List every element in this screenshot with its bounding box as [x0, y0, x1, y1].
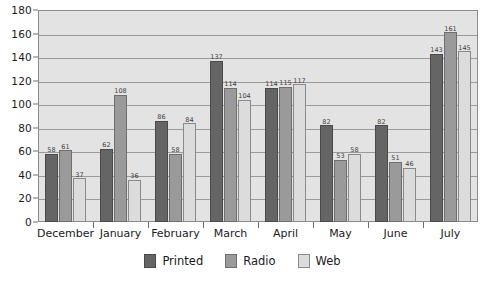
- x-tick-label: July: [441, 227, 461, 240]
- bar-value-label: 36: [130, 173, 138, 180]
- legend-item-web[interactable]: Web: [298, 254, 341, 268]
- y-tick-label: 0: [25, 216, 32, 228]
- bar-printed[interactable]: 137: [210, 61, 223, 222]
- legend-swatch-printed-icon: [144, 254, 156, 268]
- legend-label: Web: [316, 254, 341, 268]
- bar-value-label: 58: [171, 147, 179, 154]
- bar-value-label: 104: [238, 93, 250, 100]
- y-tick-label: 20: [18, 192, 32, 204]
- bar-radio[interactable]: 61: [59, 150, 72, 222]
- bar-radio[interactable]: 58: [169, 154, 182, 222]
- legend-label: Radio: [243, 254, 275, 268]
- bar-group: 114115117: [258, 10, 313, 222]
- bar-web[interactable]: 84: [183, 123, 196, 222]
- bar-radio[interactable]: 108: [114, 95, 127, 222]
- bar-printed[interactable]: 58: [45, 154, 58, 222]
- legend-item-printed[interactable]: Printed: [144, 254, 203, 268]
- x-tick-label: April: [273, 227, 298, 240]
- bar-group: 6210836: [93, 10, 148, 222]
- bar-web[interactable]: 117: [293, 84, 306, 222]
- bar-printed[interactable]: 62: [100, 149, 113, 222]
- bar-radio[interactable]: 114: [224, 88, 237, 222]
- x-tick-label: May: [329, 227, 352, 240]
- x-tick-label: February: [151, 227, 200, 240]
- legend-swatch-web-icon: [298, 254, 310, 268]
- bar-group: 586137: [38, 10, 93, 222]
- bar-value-label: 82: [322, 119, 330, 126]
- x-tick-label: December: [37, 227, 94, 240]
- bar-value-label: 145: [458, 45, 470, 52]
- bar-value-label: 84: [185, 117, 193, 124]
- y-tick-label: 140: [11, 51, 32, 63]
- bar-web[interactable]: 58: [348, 154, 361, 222]
- x-tick-label: June: [384, 227, 408, 240]
- bar-value-label: 86: [157, 114, 165, 121]
- bar-value-label: 58: [350, 147, 358, 154]
- bar-value-label: 62: [102, 142, 110, 149]
- bar-chart: 020406080100120140160180 586137621083686…: [0, 0, 485, 284]
- bar-group: 825146: [368, 10, 423, 222]
- legend-swatch-radio-icon: [225, 254, 237, 268]
- bar-value-label: 61: [61, 144, 69, 151]
- bar-value-label: 117: [293, 78, 305, 85]
- bars-layer: 5861376210836865884137114104114115117825…: [38, 10, 478, 222]
- legend-item-radio[interactable]: Radio: [225, 254, 275, 268]
- x-tick-label: January: [100, 227, 142, 240]
- bar-web[interactable]: 36: [128, 180, 141, 222]
- bar-radio[interactable]: 51: [389, 162, 402, 222]
- bar-value-label: 46: [405, 161, 413, 168]
- bar-value-label: 114: [265, 81, 277, 88]
- bar-value-label: 53: [336, 153, 344, 160]
- bar-value-label: 37: [75, 172, 83, 179]
- bar-value-label: 115: [279, 80, 291, 87]
- y-axis: 020406080100120140160180: [0, 10, 32, 222]
- y-tick-label: 60: [18, 145, 32, 157]
- y-tick-label: 40: [18, 169, 32, 181]
- bar-web[interactable]: 145: [458, 51, 471, 222]
- y-tick-label: 80: [18, 122, 32, 134]
- bar-value-label: 137: [210, 54, 222, 61]
- bar-group: 865884: [148, 10, 203, 222]
- bar-printed[interactable]: 143: [430, 54, 443, 222]
- bar-web[interactable]: 104: [238, 100, 251, 222]
- x-axis: DecemberJanuaryFebruaryMarchAprilMayJune…: [38, 227, 478, 247]
- bar-value-label: 51: [391, 155, 399, 162]
- bar-group: 143161145: [423, 10, 478, 222]
- y-tick-label: 100: [11, 98, 32, 110]
- bar-printed[interactable]: 82: [320, 125, 333, 222]
- bar-value-label: 161: [444, 26, 456, 33]
- bar-radio[interactable]: 161: [444, 32, 457, 222]
- y-tick-label: 160: [11, 28, 32, 40]
- legend-label: Printed: [162, 254, 203, 268]
- bar-value-label: 143: [430, 47, 442, 54]
- bar-printed[interactable]: 82: [375, 125, 388, 222]
- bar-group: 825358: [313, 10, 368, 222]
- bar-radio[interactable]: 115: [279, 87, 292, 222]
- bar-web[interactable]: 37: [73, 178, 86, 222]
- bar-printed[interactable]: 86: [155, 121, 168, 222]
- bar-value-label: 58: [47, 147, 55, 154]
- bar-value-label: 108: [114, 88, 126, 95]
- y-tick-label: 120: [11, 75, 32, 87]
- bar-printed[interactable]: 114: [265, 88, 278, 222]
- bar-radio[interactable]: 53: [334, 160, 347, 222]
- x-tick-label: March: [214, 227, 248, 240]
- chart-legend: PrintedRadioWeb: [0, 254, 485, 268]
- bar-value-label: 82: [377, 119, 385, 126]
- bar-web[interactable]: 46: [403, 168, 416, 222]
- bar-group: 137114104: [203, 10, 258, 222]
- y-tick-label: 180: [11, 4, 32, 16]
- bar-value-label: 114: [224, 81, 236, 88]
